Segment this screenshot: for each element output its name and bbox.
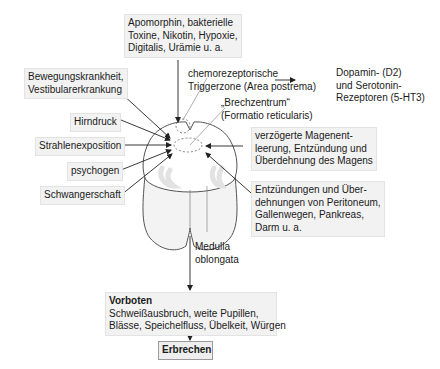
result-label: Erbrechen xyxy=(162,344,209,357)
ctz-label: chemorezeptorische Triggerzone (Area pos… xyxy=(188,68,316,93)
trigger-text: Vestibularerkrankung xyxy=(28,84,124,97)
trigger-psychogenic: psychogen xyxy=(67,162,123,181)
vomiting-center-label: „Brechzentrum“ (Formatio reticularis) xyxy=(221,97,313,122)
receptors-label: Dopamin- (D2) und Serotonin- Rezeptoren … xyxy=(336,67,425,105)
trigger-intracranial-pressure: Hirndruck xyxy=(70,113,121,132)
medulla-label-line: Medulla xyxy=(195,241,239,254)
top-box-line: Digitalis, Urämie u. a. xyxy=(128,42,238,55)
vomiting-center-label-line: „Brechzentrum“ xyxy=(221,97,313,110)
top-box-line: Toxine, Nikotin, Hypoxie, xyxy=(128,30,238,43)
receptors-label-line: und Serotonin- xyxy=(336,80,425,93)
vomiting-result-box: Erbrechen xyxy=(158,341,213,360)
trigger-visceral: Entzündungen und Über- dehnungen von Per… xyxy=(251,181,385,237)
receptors-label-line: Dopamin- (D2) xyxy=(336,67,425,80)
trigger-text: Hirndruck xyxy=(74,116,117,129)
medulla-label-line: oblongata xyxy=(195,254,239,267)
trigger-text: Schwangerschaft xyxy=(44,189,121,202)
ctz-label-line: chemorezeptorische xyxy=(188,68,316,81)
trigger-text: leerung, Entzündung und xyxy=(255,143,373,156)
receptors-label-line: Rezeptoren (5-HT3) xyxy=(336,92,425,105)
trigger-text: Darm u. a. xyxy=(255,222,381,235)
vomiting-center-label-line: (Formatio reticularis) xyxy=(221,110,313,123)
trigger-text: Strahlenexposition xyxy=(39,140,121,153)
trigger-text: Entzündungen und Über- xyxy=(255,184,381,197)
trigger-text: dehnungen von Peritoneum, xyxy=(255,197,381,210)
top-trigger-box: Apomorphin, bakterielle Toxine, Nikotin,… xyxy=(124,14,242,58)
trigger-text: Überdehnung des Magens xyxy=(255,155,373,168)
trigger-text: Bewegungskrankheit, xyxy=(28,71,124,84)
trigger-text: verzögerte Magenent- xyxy=(255,130,373,143)
top-box-line: Apomorphin, bakterielle xyxy=(128,17,238,30)
ctz-label-line: Triggerzone (Area postrema) xyxy=(188,81,316,94)
trigger-radiation: Strahlenexposition xyxy=(35,137,125,156)
prodromes-heading: Vorboten xyxy=(109,295,273,308)
trigger-motion-sickness: Bewegungskrankheit, Vestibularerkrankung xyxy=(24,68,128,99)
trigger-text: Gallenwegen, Pankreas, xyxy=(255,209,381,222)
prodromes-box: Vorboten Schweißausbruch, weite Pupillen… xyxy=(105,292,277,336)
trigger-gastric: verzögerte Magenent- leerung, Entzündung… xyxy=(251,127,377,171)
prodromes-line: Blässe, Speichelfluss, Übelkeit, Würgen xyxy=(109,320,273,333)
trigger-pregnancy: Schwangerschaft xyxy=(40,186,125,205)
medulla-oblongata-shape xyxy=(143,119,237,250)
prodromes-line: Schweißausbruch, weite Pupillen, xyxy=(109,308,273,321)
trigger-text: psychogen xyxy=(71,165,119,178)
medulla-label: Medulla oblongata xyxy=(195,241,239,266)
